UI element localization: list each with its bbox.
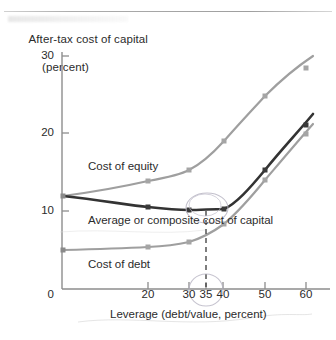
y-tick-label-10: 10 (26, 204, 54, 216)
data-point-marker (304, 66, 309, 71)
series-label-average-cost-of-capital: Average or composite cost of capital (88, 214, 273, 228)
data-point-marker (146, 245, 151, 250)
data-point-marker (146, 205, 151, 210)
data-point-marker (61, 194, 66, 199)
series-label-cost-of-equity: Cost of equity (88, 160, 158, 174)
y-tick-label-0: 0 (26, 288, 54, 300)
data-point-marker (263, 94, 268, 99)
figure-container: After-tax cost of capital (percent) (0, 0, 336, 340)
data-point-marker (61, 248, 66, 253)
data-point-marker (263, 178, 268, 183)
data-point-marker (222, 139, 227, 144)
x-tick-label-20: 20 (135, 288, 161, 300)
data-point-marker (187, 240, 192, 245)
x-tick-label-50: 50 (252, 288, 278, 300)
data-point-marker (222, 207, 227, 212)
x-axis-caption: Leverage (debt/value, percent) (110, 308, 267, 320)
x-tick-label-40: 40 (210, 288, 236, 300)
series-label-cost-of-debt: Cost of debt (88, 258, 150, 272)
x-tick-label-60: 60 (293, 288, 319, 300)
data-point-marker (146, 179, 151, 184)
series-line-cost-of-equity (63, 56, 313, 196)
data-point-marker (263, 168, 268, 173)
scan-artifact-mid (60, 230, 205, 232)
data-point-marker (304, 123, 309, 128)
y-tick-label-20: 20 (26, 126, 54, 138)
data-point-marker (304, 132, 309, 137)
data-point-marker (187, 168, 192, 173)
y-tick-label-30: 30 (26, 49, 54, 61)
pencil-annotation-circle-minimum-inner (189, 194, 221, 216)
